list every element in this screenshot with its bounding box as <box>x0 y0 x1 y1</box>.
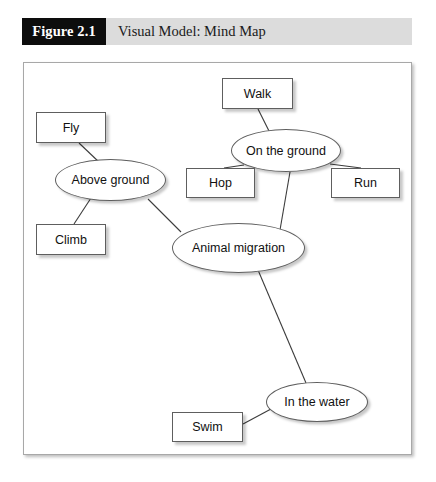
node-in-the-water[interactable]: In the water <box>266 382 368 422</box>
node-label-animal-migration: Animal migration <box>192 241 285 255</box>
edge-above-climb <box>74 198 91 224</box>
node-hop[interactable]: Hop <box>186 168 255 198</box>
edge-water-swim <box>243 409 271 424</box>
node-walk[interactable]: Walk <box>222 78 293 109</box>
node-label-fly: Fly <box>63 121 80 135</box>
node-run[interactable]: Run <box>331 168 400 198</box>
edge-animal-onground <box>280 172 290 230</box>
node-label-swim: Swim <box>192 420 223 434</box>
node-label-hop: Hop <box>209 176 232 190</box>
node-label-run: Run <box>354 176 377 190</box>
node-above-ground[interactable]: Above ground <box>55 159 166 201</box>
node-label-in-the-water: In the water <box>284 395 349 409</box>
node-label-walk: Walk <box>244 87 271 101</box>
node-animal-migration[interactable]: Animal migration <box>172 223 305 273</box>
node-swim[interactable]: Swim <box>172 412 243 442</box>
node-label-on-the-ground: On the ground <box>246 144 326 158</box>
edge-animal-above <box>148 199 181 232</box>
edge-animal-water <box>258 270 306 383</box>
node-label-climb: Climb <box>55 233 87 247</box>
node-climb[interactable]: Climb <box>36 224 106 255</box>
node-on-the-ground[interactable]: On the ground <box>231 129 341 172</box>
node-label-above-ground: Above ground <box>72 173 150 187</box>
node-fly[interactable]: Fly <box>36 112 106 143</box>
figure-screenshot: Figure 2.1 Visual Model: Mind Map WalkFl… <box>0 0 436 482</box>
